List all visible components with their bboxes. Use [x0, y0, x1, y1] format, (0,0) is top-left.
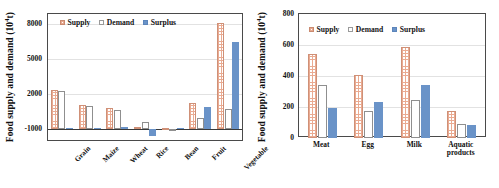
bar-demand-vegetable [225, 109, 232, 130]
bar-supply-meat [308, 54, 317, 138]
bar-group [134, 14, 156, 140]
bar-surplus-maize [94, 128, 101, 130]
y-tick-label: 8000 [27, 19, 42, 28]
bar-demand-grain [58, 91, 65, 129]
bar-supply-vegetable [217, 23, 224, 130]
bar-surplus-grain [66, 128, 73, 130]
panel-right: Food supply and demand (104t) 800 600 40… [250, 0, 499, 188]
bar-surplus-meat [328, 108, 337, 138]
bar-surplus-egg [374, 102, 383, 138]
x-axis-label: Rice [154, 144, 170, 160]
y-axis-title-right: Food supply and demand (104t) [252, 0, 270, 155]
x-axis-label: Aquaticproducts [447, 141, 475, 157]
bar-group [308, 14, 337, 136]
bar-supply-wheat [106, 108, 113, 129]
bar-supply-rice [134, 127, 141, 129]
bar-surplus-rice [149, 129, 156, 136]
y-tick-label: 5000 [27, 54, 42, 63]
bar-groups-right [299, 14, 485, 136]
y-tick-label: 200 [283, 102, 294, 111]
plot-area-right: Supply Demand Surplus [298, 13, 486, 137]
bar-supply-grain [51, 90, 58, 130]
bar-demand-bean [169, 129, 176, 131]
y-tick-label: -1000 [25, 124, 43, 133]
bar-group [354, 14, 383, 136]
y-axis-title-left: Food supply and demand (104t) [0, 0, 18, 155]
bar-supply-egg [354, 75, 363, 138]
x-axis-label: Fruit [210, 144, 228, 162]
bar-supply-maize [79, 105, 86, 129]
bar-demand-egg [364, 111, 373, 138]
bar-supply-aquatic-products [447, 111, 456, 138]
bar-supply-milk [401, 47, 410, 138]
bar-demand-meat [318, 85, 327, 138]
bar-surplus-bean [177, 128, 184, 129]
y-tick-label: 800 [283, 9, 294, 18]
bar-group [51, 14, 73, 140]
bar-group [401, 14, 430, 136]
bar-demand-milk [411, 100, 420, 138]
bar-groups-left [48, 14, 242, 140]
bar-group [189, 14, 211, 140]
bar-group [217, 14, 239, 140]
x-axis-label: Egg [362, 141, 374, 149]
bar-surplus-fruit [204, 107, 211, 130]
bar-demand-wheat [114, 110, 121, 129]
bar-surplus-vegetable [232, 42, 239, 130]
bar-surplus-aquatic-products [467, 125, 476, 138]
bar-demand-fruit [197, 118, 204, 130]
bar-group [79, 14, 101, 140]
bar-group [106, 14, 128, 140]
x-axis-label: Milk [407, 141, 422, 149]
y-tick-label: 2000 [27, 89, 42, 98]
y-tick-label: 600 [283, 40, 294, 49]
bar-group [162, 14, 184, 140]
figure-two-panel-bar-charts: Food supply and demand (104t) 8000 5000 … [0, 0, 499, 188]
x-axis-label: Grain [72, 144, 92, 164]
x-axis-label: Bean [182, 144, 200, 162]
x-axis-label: Meat [313, 141, 329, 149]
y-axis-ticks-left: 8000 5000 2000 -1000 [18, 0, 44, 155]
y-tick-label: 0 [290, 133, 294, 142]
x-axis-label: Wheat [128, 144, 149, 165]
bar-demand-aquatic-products [457, 124, 466, 138]
bar-demand-rice [142, 122, 149, 129]
bar-demand-maize [86, 106, 93, 129]
panel-left: Food supply and demand (104t) 8000 5000 … [0, 0, 250, 188]
y-axis-ticks-right: 800 600 400 200 0 [270, 0, 296, 155]
y-tick-label: 400 [283, 71, 294, 80]
x-axis-label: Maize [100, 144, 120, 164]
bar-surplus-milk [421, 85, 430, 138]
bar-supply-fruit [189, 103, 196, 129]
plot-area-left: Supply Demand Surplus [47, 13, 243, 141]
bar-group [447, 14, 476, 136]
bar-surplus-wheat [121, 127, 128, 129]
bar-supply-bean [162, 128, 169, 130]
